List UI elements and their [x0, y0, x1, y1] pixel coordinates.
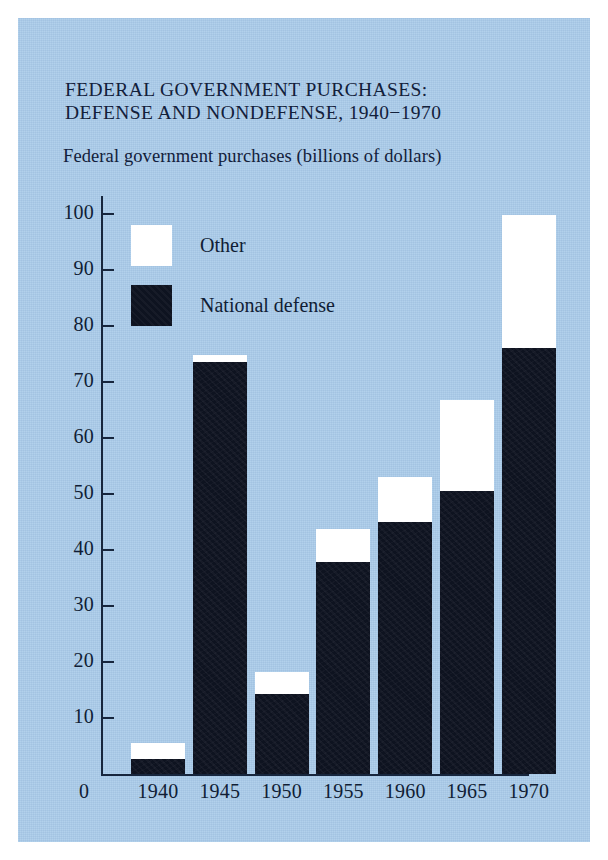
x-axis-tick-label: 1950	[248, 780, 316, 803]
bar-segment-other[interactable]	[378, 477, 432, 522]
y-axis-line	[101, 196, 103, 776]
bar-segment-other[interactable]	[131, 743, 185, 759]
y-axis-tick-label: 30	[48, 593, 94, 616]
y-axis-tick	[103, 605, 114, 607]
x-axis-line	[101, 774, 529, 776]
y-axis-tick	[103, 437, 114, 439]
x-axis-tick-label: 1965	[433, 780, 501, 803]
y-axis-tick-label: 80	[48, 313, 94, 336]
x-axis-tick-label: 1955	[309, 780, 377, 803]
legend-label: Other	[200, 234, 246, 257]
bar-group[interactable]	[378, 477, 432, 774]
legend-label: National defense	[200, 294, 335, 317]
bar-group[interactable]	[316, 529, 370, 774]
x-axis-origin-label: 0	[70, 780, 98, 803]
bar-segment-national-defense[interactable]	[502, 348, 556, 774]
chart-subtitle: Federal government purchases (billions o…	[63, 146, 442, 167]
legend-swatch-national-defense	[131, 285, 172, 326]
y-axis-tick-label: 100	[48, 201, 94, 224]
bar-group[interactable]	[502, 215, 556, 774]
y-axis-tick-label: 90	[48, 257, 94, 280]
y-axis-tick	[103, 493, 114, 495]
legend-item[interactable]: Other	[131, 223, 335, 267]
y-axis-tick-label: 50	[48, 481, 94, 504]
bar-group[interactable]	[193, 355, 247, 774]
y-axis-tick-label: 20	[48, 649, 94, 672]
bar-segment-other[interactable]	[316, 529, 370, 563]
y-axis-tick-label: 70	[48, 369, 94, 392]
bar-group[interactable]	[255, 672, 309, 774]
y-axis-tick	[103, 325, 114, 327]
bar-segment-other[interactable]	[502, 215, 556, 348]
legend-item[interactable]: National defense	[131, 283, 335, 327]
bar-segment-other[interactable]	[440, 400, 494, 491]
bar-segment-national-defense[interactable]	[378, 522, 432, 774]
plot-area: 102030405060708090100 194019451950195519…	[18, 18, 590, 842]
y-axis-tick	[103, 549, 114, 551]
y-axis-tick-label: 40	[48, 537, 94, 560]
x-axis-tick-label: 1940	[124, 780, 192, 803]
y-axis-tick-label: 10	[48, 705, 94, 728]
legend: OtherNational defense	[131, 223, 335, 343]
y-axis-tick	[103, 661, 114, 663]
bar-segment-other[interactable]	[193, 355, 247, 362]
legend-swatch-other	[131, 225, 172, 266]
bar-segment-national-defense[interactable]	[316, 562, 370, 774]
bar-segment-national-defense[interactable]	[255, 694, 309, 774]
bar-segment-national-defense[interactable]	[193, 362, 247, 774]
page-title: FEDERAL GOVERNMENT PURCHASES: DEFENSE AN…	[65, 78, 535, 124]
bar-segment-national-defense[interactable]	[131, 759, 185, 774]
x-axis-tick-label: 1970	[495, 780, 563, 803]
bar-group[interactable]	[131, 743, 185, 774]
y-axis-tick	[103, 269, 114, 271]
x-axis-tick-label: 1960	[371, 780, 439, 803]
bar-segment-other[interactable]	[255, 672, 309, 694]
y-axis-tick	[103, 213, 114, 215]
x-axis-tick-label: 1945	[186, 780, 254, 803]
y-axis-tick	[103, 381, 114, 383]
y-axis-tick-label: 60	[48, 425, 94, 448]
bar-segment-national-defense[interactable]	[440, 491, 494, 774]
figure-panel: FEDERAL GOVERNMENT PURCHASES: DEFENSE AN…	[18, 18, 590, 842]
y-axis-tick	[103, 717, 114, 719]
bar-group[interactable]	[440, 400, 494, 774]
